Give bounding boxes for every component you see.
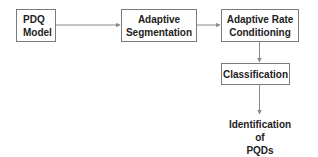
node-label-line: Conditioning xyxy=(229,26,291,39)
node-label-line: of xyxy=(220,131,300,144)
node-label-line: Classification xyxy=(223,68,288,81)
node-label-line: Identification xyxy=(220,118,300,131)
node-classification: Classification xyxy=(221,63,290,85)
node-label-line: Segmentation xyxy=(126,26,192,39)
node-adaptive-rate-conditioning: Adaptive Rate Conditioning xyxy=(221,9,299,42)
node-label-line: PDQ xyxy=(23,13,45,26)
node-label-line: Adaptive xyxy=(138,13,180,26)
node-label-line: PQDs xyxy=(220,144,300,157)
node-adaptive-segmentation: Adaptive Segmentation xyxy=(121,9,197,42)
node-label-line: Adaptive Rate xyxy=(227,13,294,26)
node-pdq-model: PDQ Model xyxy=(16,9,56,42)
node-label-line: Model xyxy=(23,26,52,39)
node-identification-of-pqds: Identification of PQDs xyxy=(220,118,300,157)
